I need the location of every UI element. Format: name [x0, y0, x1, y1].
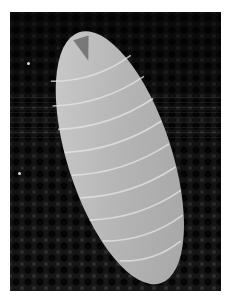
- larva-body: [10, 12, 221, 291]
- larva-photo: [10, 12, 221, 291]
